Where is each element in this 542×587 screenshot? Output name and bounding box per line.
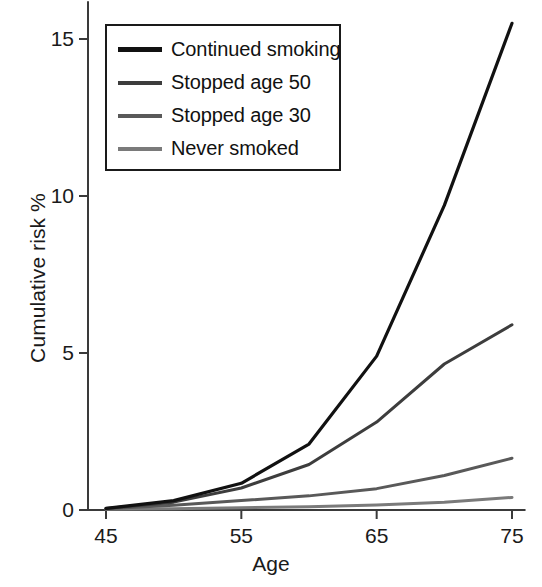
legend-swatch-stopped-age-50 <box>118 81 162 85</box>
y-tick-label: 10 <box>28 184 74 208</box>
series-line-stopped-age-50 <box>106 325 512 509</box>
chart-legend: Continued smoking Stopped age 50 Stopped… <box>105 24 341 171</box>
legend-swatch-stopped-age-30 <box>118 114 162 118</box>
x-tick-label: 65 <box>347 524 407 548</box>
legend-swatch-continued-smoking <box>118 47 162 52</box>
legend-item-stopped-age-50: Stopped age 50 <box>107 66 339 99</box>
x-axis-label: Age <box>0 552 542 576</box>
legend-label-stopped-age-30: Stopped age 30 <box>171 104 311 127</box>
legend-item-continued-smoking: Continued smoking <box>107 33 339 66</box>
chart-figure: Cumulative risk % Age 05101545556575 Con… <box>0 0 542 587</box>
legend-swatch-never-smoked <box>118 147 162 151</box>
y-tick-label: 5 <box>28 341 74 365</box>
x-tick-label: 55 <box>211 524 271 548</box>
legend-label-never-smoked: Never smoked <box>171 137 299 160</box>
y-tick-label: 15 <box>28 27 74 51</box>
legend-label-stopped-age-50: Stopped age 50 <box>171 71 311 94</box>
legend-item-stopped-age-30: Stopped age 30 <box>107 99 339 132</box>
legend-label-continued-smoking: Continued smoking <box>171 38 341 61</box>
x-tick-label: 45 <box>76 524 136 548</box>
x-tick-label: 75 <box>482 524 542 548</box>
y-tick-label: 0 <box>28 498 74 522</box>
legend-item-never-smoked: Never smoked <box>107 132 339 165</box>
